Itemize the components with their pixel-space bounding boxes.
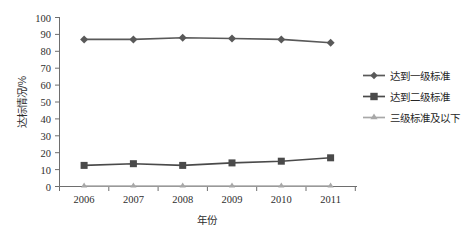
legend-label: 三级标准及以下	[390, 112, 460, 124]
square-marker	[327, 154, 334, 161]
square-marker	[130, 160, 137, 167]
x-tick-label: 2010	[271, 194, 292, 205]
x-tick-label: 2006	[74, 194, 95, 205]
square-marker	[278, 158, 285, 165]
square-marker	[81, 162, 88, 169]
y-tick-label: 90	[41, 29, 52, 40]
y-tick-label: 100	[35, 13, 51, 24]
x-tick-label: 2009	[222, 194, 243, 205]
line-chart-figure: 100 90 80 70 60 50 40 30 20 10 0 达标情况/%	[0, 0, 475, 241]
y-tick-label: 70	[41, 63, 52, 74]
x-tick-label: 2008	[172, 194, 193, 205]
y-tick-label: 10	[41, 165, 52, 176]
square-marker-icon	[370, 93, 377, 100]
chart-canvas: 100 90 80 70 60 50 40 30 20 10 0 达标情况/%	[0, 0, 475, 241]
square-marker	[179, 162, 186, 169]
x-axis-title: 年份	[197, 214, 218, 226]
y-axis-title: 达标情况/%	[16, 76, 28, 128]
y-tick-label: 50	[41, 97, 52, 108]
legend-label: 达到二级标准	[390, 91, 450, 103]
x-tick-label: 2007	[123, 194, 144, 205]
y-tick-label: 20	[41, 148, 52, 159]
x-tick-label: 2011	[320, 194, 341, 205]
y-tick-label: 80	[41, 46, 52, 57]
y-tick-label: 30	[41, 131, 52, 142]
y-tick-label: 60	[41, 80, 52, 91]
y-tick-label: 0	[46, 182, 51, 193]
legend-label: 达到一级标准	[390, 70, 450, 82]
y-tick-label: 40	[41, 114, 52, 125]
square-marker	[229, 159, 236, 166]
